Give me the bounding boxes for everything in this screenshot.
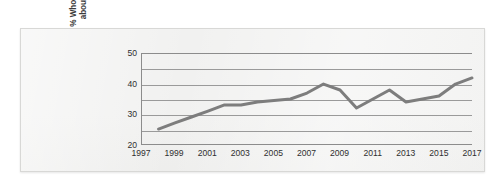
x-tick-label-2011: 2011 — [363, 148, 381, 159]
x-axis-tick-labels: 1997199920012003200520072009201120132015… — [141, 148, 472, 162]
plot-wrapper: 50403020 1997199920012003200520072009201… — [120, 53, 472, 171]
y-tick-label-30: 30 — [127, 110, 137, 119]
x-tick-label-2001: 2001 — [198, 148, 217, 159]
y-axis-tick-labels: 50403020 — [120, 53, 137, 145]
y-axis-title-line-2: about global warming — [79, 0, 90, 19]
series-line-worry-global-warming — [159, 78, 473, 129]
plot-area — [141, 53, 472, 145]
y-axis-title-line-1: % Who worry a great deal — [69, 0, 80, 27]
x-tick-label-1999: 1999 — [165, 148, 184, 159]
y-tick-label-50: 50 — [127, 49, 137, 58]
x-tick-label-1997: 1997 — [131, 148, 150, 159]
x-tick-label-2015: 2015 — [429, 148, 448, 159]
x-tick-label-2009: 2009 — [330, 148, 349, 159]
line-series-svg — [142, 54, 472, 144]
x-tick-label-2013: 2013 — [396, 148, 415, 159]
x-tick-label-2007: 2007 — [297, 148, 316, 159]
screenshot-root: % Who worry a great deal about global wa… — [0, 0, 503, 184]
y-tick-label-40: 40 — [127, 79, 137, 88]
x-tick-label-2017: 2017 — [462, 148, 481, 159]
chart-figure-panel: % Who worry a great deal about global wa… — [20, 28, 485, 172]
x-tick-label-2005: 2005 — [264, 148, 283, 159]
y-axis-title: % Who worry a great deal about global wa… — [59, 0, 99, 37]
x-tick-label-2003: 2003 — [231, 148, 250, 159]
